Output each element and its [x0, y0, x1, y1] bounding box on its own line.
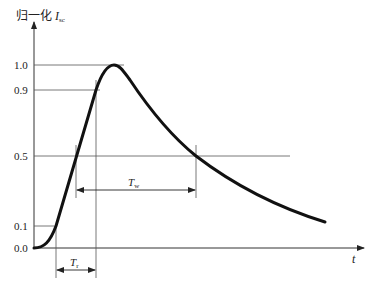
tr-label: Tr	[70, 257, 78, 270]
y-tick-0.9: 0.9	[14, 85, 28, 96]
y-label-subscript: sc	[59, 16, 65, 24]
y-tick-0.5: 0.5	[14, 151, 28, 162]
x-axis-label: t	[352, 253, 355, 265]
y-label-prefix: 归一化	[16, 9, 55, 23]
y-tick-1.0: 1.0	[14, 60, 28, 71]
tw-label: Tw	[128, 177, 139, 190]
tr-subscript: r	[76, 262, 78, 270]
pulse-diagram	[0, 0, 376, 291]
y-tick-0.1: 0.1	[14, 221, 28, 232]
pulse-curve	[34, 65, 325, 248]
tw-subscript: w	[134, 182, 139, 190]
y-tick-0.0: 0.0	[14, 243, 28, 254]
y-axis-label: 归一化 Isc	[16, 10, 65, 24]
